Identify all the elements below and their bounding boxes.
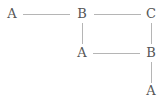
edge-b-a-middle <box>82 23 83 44</box>
edge-a-b-top <box>23 14 70 15</box>
edge-b-a-bottom <box>151 62 152 83</box>
node-a-bottom-right: A <box>143 83 159 99</box>
node-a-top-left: A <box>4 6 20 22</box>
diagram-canvas: A B C A B A <box>0 0 164 102</box>
node-b-middle-right: B <box>143 45 159 61</box>
edge-c-b-right <box>151 23 152 44</box>
node-c-top-right: C <box>143 6 159 22</box>
node-b-top-middle: B <box>74 6 90 22</box>
edge-b-c-top <box>94 14 141 15</box>
node-a-middle: A <box>74 45 90 61</box>
edge-a-b-middle <box>93 53 140 54</box>
